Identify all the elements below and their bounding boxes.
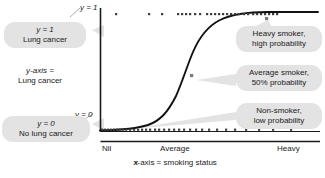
callout-y0-line2: No lung cancer [9, 129, 83, 139]
x-axis-caption: xx-axis = smoking status [134, 158, 217, 167]
callout-nonsmoker-line1: Non-smoker, [243, 106, 315, 116]
x-tick-average: Average [160, 144, 190, 153]
callout-y1-line2: Lung cancer [11, 35, 79, 45]
callout-y1-line1: y = 1 [11, 25, 79, 35]
callout-y-equals-zero: y = 0 No lung cancer [2, 116, 90, 142]
y-axis-caption-line2: Lung cancer [18, 76, 62, 86]
data-points-y1 [115, 13, 278, 15]
x-tick-heavy: Heavy [277, 144, 300, 153]
callout-average-line1: Average smoker, [243, 68, 315, 78]
y-axis-caption-line1: y-axis = [18, 66, 62, 76]
callout-non-smoker: Non-smoker, low probability [236, 103, 322, 129]
callout-y-equals-one: y = 1 Lung cancer [4, 22, 86, 48]
callout-heavy-line1: Heavy smoker, [243, 29, 315, 39]
callout-average-line2: 50% probability [243, 78, 315, 88]
callout-heavy-smoker: Heavy smoker, high probability [236, 26, 322, 52]
callout-heavy-line2: high probability [243, 39, 315, 49]
x-axis-caption-text: x-axis = smoking status [134, 158, 217, 167]
callout-nonsmoker-line2: low probability [243, 116, 315, 126]
x-tick-nil: Nil [102, 144, 111, 153]
callout-average-smoker: Average smoker, 50% probability [236, 65, 322, 91]
logistic-regression-figure: y = 1 y = 0 y-axis = Lung cancer Nil Ave… [0, 0, 325, 178]
callout-y0-line1: y = 0 [9, 119, 83, 129]
y-axis-caption: y-axis = Lung cancer [18, 66, 62, 85]
y-top-axis-label: y = 1 [80, 3, 98, 13]
